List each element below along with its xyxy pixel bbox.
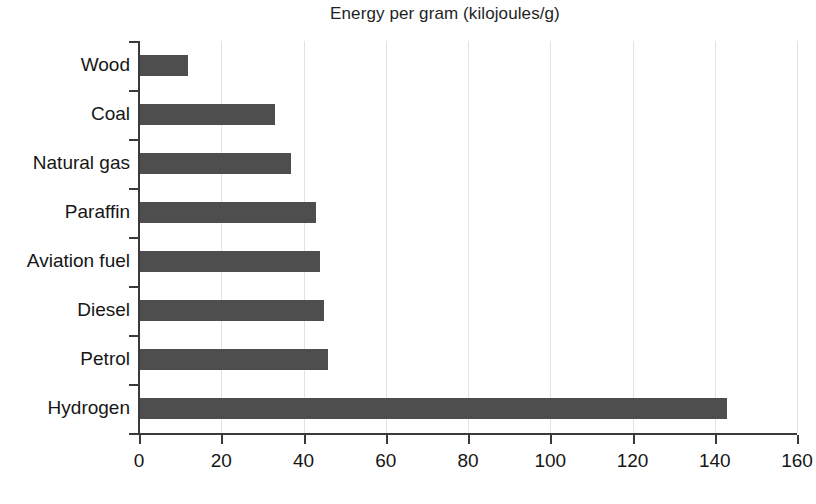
y-tick: [129, 237, 139, 239]
x-label-100: 100: [534, 450, 566, 472]
y-label-aviation-fuel: Aviation fuel: [0, 250, 130, 272]
y-tick: [129, 335, 139, 337]
bar-row: [139, 41, 797, 90]
y-tick: [129, 41, 139, 43]
y-label-petrol: Petrol: [0, 348, 130, 370]
y-label-natural-gas: Natural gas: [0, 152, 130, 174]
bar-hydrogen: [139, 398, 727, 419]
x-label-40: 40: [293, 450, 314, 472]
y-tick: [129, 188, 139, 190]
x-tick-20: [221, 435, 223, 444]
x-tick-40: [304, 435, 306, 444]
y-tick: [129, 384, 139, 386]
y-tick: [129, 433, 139, 435]
bar-coal: [139, 104, 275, 125]
x-tick-0: [139, 435, 141, 444]
y-axis-category-labels: WoodCoalNatural gasParaffinAviation fuel…: [0, 41, 130, 433]
plot-area: [139, 41, 797, 433]
bar-wood: [139, 55, 188, 76]
bar-diesel: [139, 300, 324, 321]
x-tick-160: [797, 435, 799, 444]
x-label-160: 160: [781, 450, 813, 472]
x-label-0: 0: [134, 450, 145, 472]
y-label-paraffin: Paraffin: [0, 201, 130, 223]
bar-paraffin: [139, 202, 316, 223]
x-tick-60: [386, 435, 388, 444]
x-label-60: 60: [375, 450, 396, 472]
y-label-hydrogen: Hydrogen: [0, 397, 130, 419]
y-label-diesel: Diesel: [0, 299, 130, 321]
bar-row: [139, 188, 797, 237]
bar-petrol: [139, 349, 328, 370]
x-label-140: 140: [699, 450, 731, 472]
y-tick: [129, 286, 139, 288]
y-label-wood: Wood: [0, 54, 130, 76]
x-tick-80: [468, 435, 470, 444]
chart-title-text: Energy per gram (kilojoules/g): [330, 4, 560, 24]
bar-row: [139, 384, 797, 433]
bar-row: [139, 335, 797, 384]
x-label-20: 20: [211, 450, 232, 472]
y-tick: [129, 139, 139, 141]
x-tick-120: [633, 435, 635, 444]
bar-natural-gas: [139, 153, 291, 174]
chart-screenshot: Energy per gram (kilojoules/g) WoodCoalN…: [0, 0, 816, 504]
bar-row: [139, 90, 797, 139]
chart-title: Energy per gram (kilojoules/g): [0, 4, 816, 24]
y-tick: [129, 90, 139, 92]
bar-row: [139, 139, 797, 188]
y-label-coal: Coal: [0, 103, 130, 125]
bar-row: [139, 237, 797, 286]
x-label-80: 80: [457, 450, 478, 472]
bar-row: [139, 286, 797, 335]
x-label-120: 120: [617, 450, 649, 472]
bar-aviation-fuel: [139, 251, 320, 272]
gridline-160: [797, 41, 798, 433]
x-tick-100: [550, 435, 552, 444]
x-tick-140: [715, 435, 717, 444]
